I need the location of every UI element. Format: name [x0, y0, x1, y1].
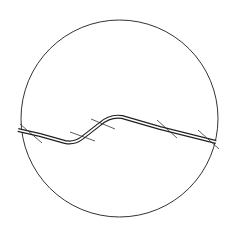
reinforcing-bar [18, 117, 216, 143]
detail-diagram [0, 0, 236, 234]
bar-outline [18, 117, 216, 143]
detail-drawing [0, 0, 236, 234]
